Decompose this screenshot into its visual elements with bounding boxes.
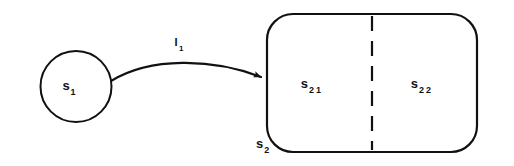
state-transition-diagram: s1 I1 s21 s22 s2	[0, 0, 514, 166]
state-node-s1[interactable]	[41, 51, 112, 122]
transition-label-I1: I1	[174, 36, 184, 53]
transition-arrow-I1[interactable]	[111, 63, 261, 81]
composite-state-label-s2: s2	[256, 136, 269, 155]
diagram-canvas: s1 I1 s21 s22 s2	[0, 0, 514, 166]
composite-state-s2[interactable]	[267, 14, 477, 152]
